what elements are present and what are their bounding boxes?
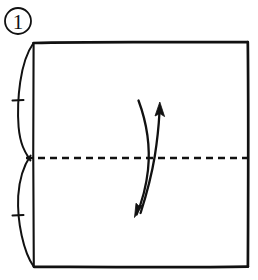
paper-left-edge <box>33 43 34 267</box>
step-number-label: 1 <box>13 10 24 34</box>
diagram-canvas: 1 <box>0 0 258 280</box>
paper-bottom-edge <box>34 267 248 268</box>
upper-bracket-tick-mark <box>13 100 24 101</box>
paper-top-edge <box>34 42 248 43</box>
step-number-badge: 1 <box>5 8 31 34</box>
origami-step-diagram: 1 <box>0 0 258 280</box>
lower-bracket-tick-mark <box>13 215 24 216</box>
